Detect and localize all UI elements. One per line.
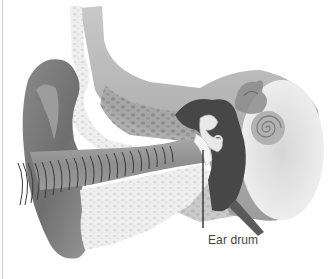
ear-illustration xyxy=(0,0,328,279)
ear-diagram: Ear drum xyxy=(0,0,328,279)
cochlea xyxy=(251,111,285,145)
ear-drum-label: Ear drum xyxy=(208,233,258,247)
